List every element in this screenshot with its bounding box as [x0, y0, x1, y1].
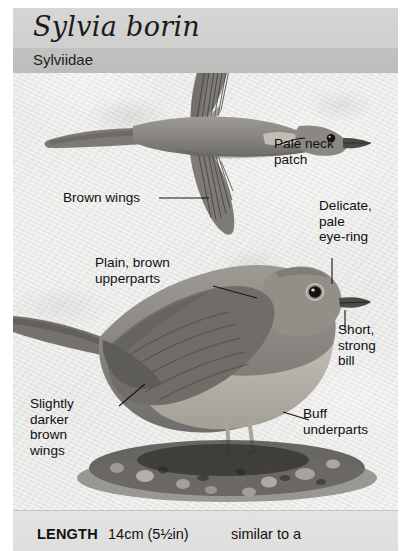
annotation-short-strong-bill: Short, strong bill — [338, 322, 376, 369]
background-blotch-overlay — [13, 8, 398, 551]
annotation-slightly-darker-brown-wings: Slightly darker brown wings — [30, 396, 74, 458]
annotation-buff-underparts: Buff underparts — [303, 406, 368, 437]
annotation-pale-neck-patch: Pale neck patch — [274, 136, 334, 167]
length-label: LENGTH — [37, 526, 98, 542]
annotation-delicate-pale-eyering: Delicate, pale eye-ring — [319, 198, 372, 245]
family-name: Sylviidae — [33, 51, 93, 68]
field-guide-page: Sylvia borin Sylviidae Pale neck patch B… — [0, 0, 411, 551]
species-panel: Sylvia borin Sylviidae Pale neck patch B… — [13, 8, 398, 551]
length-value: 14cm (5½in) — [108, 526, 189, 542]
annotation-plain-brown-upperparts: Plain, brown upperparts — [95, 255, 170, 286]
annotation-brown-wings: Brown wings — [63, 190, 140, 206]
similar-species-note: similar to a — [231, 526, 301, 542]
page-title: Sylvia borin — [33, 11, 200, 42]
